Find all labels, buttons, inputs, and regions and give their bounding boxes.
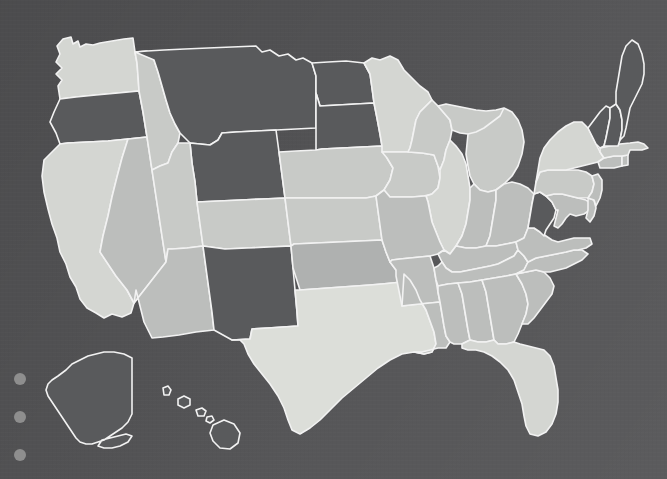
state-HI[interactable] (163, 386, 240, 449)
map-canvas (0, 0, 667, 479)
state-NM[interactable] (203, 246, 298, 340)
state-OR[interactable] (50, 91, 147, 144)
state-AK[interactable] (46, 352, 132, 448)
state-CO[interactable] (197, 198, 291, 249)
legend-dot-2[interactable] (14, 411, 26, 423)
legend-dot-3[interactable] (14, 449, 26, 461)
state-IA[interactable] (382, 152, 440, 197)
state-FL[interactable] (462, 340, 558, 436)
state-KS[interactable] (285, 196, 382, 246)
state-ND[interactable] (312, 61, 374, 106)
state-WA[interactable] (56, 37, 139, 99)
state-PA[interactable] (534, 170, 594, 198)
legend-dot-1[interactable] (14, 373, 26, 385)
state-NE[interactable] (279, 146, 393, 198)
value-scale-dots[interactable] (14, 373, 28, 461)
us-choropleth-map[interactable] (0, 0, 667, 479)
